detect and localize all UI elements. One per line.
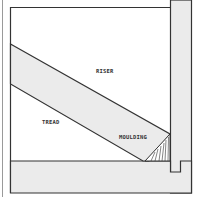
- diagonal-board: [11, 44, 171, 161]
- stair-moulding-diagram: RISER TREAD MOULDING: [0, 0, 205, 197]
- moulding-label: MOULDING: [119, 134, 148, 140]
- riser-label: RISER: [96, 68, 114, 74]
- bottom-board: [11, 161, 192, 193]
- tread-label: TREAD: [42, 119, 60, 125]
